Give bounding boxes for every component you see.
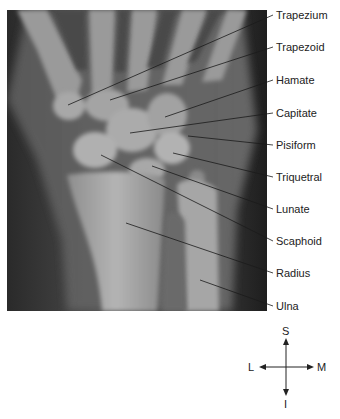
leader-line-trapezium bbox=[68, 15, 273, 105]
leader-line-pisiform bbox=[188, 136, 273, 145]
leader-line-ulna bbox=[200, 280, 273, 306]
leader-line-scaphoid bbox=[101, 155, 273, 241]
compass-inferior-label: I bbox=[284, 398, 287, 410]
label-hamate: Hamate bbox=[276, 74, 315, 86]
label-trapezium: Trapezium bbox=[276, 9, 328, 21]
compass-medial-label: M bbox=[317, 361, 326, 373]
label-capitate: Capitate bbox=[276, 107, 317, 119]
label-ulna: Ulna bbox=[276, 300, 299, 312]
arrow-up-icon bbox=[283, 338, 289, 345]
label-pisiform: Pisiform bbox=[276, 139, 316, 151]
arrow-right-icon bbox=[307, 364, 314, 370]
compass-arrows bbox=[259, 338, 314, 396]
leader-line-hamate bbox=[165, 80, 273, 117]
wrist-xray-figure: Trapezium Trapezoid Hamate Capitate Pisi… bbox=[0, 0, 340, 419]
arrow-down-icon bbox=[283, 389, 289, 396]
label-lunate: Lunate bbox=[276, 203, 310, 215]
leader-line-radius bbox=[126, 223, 273, 273]
compass-lateral-label: L bbox=[248, 361, 254, 373]
label-scaphoid: Scaphoid bbox=[276, 235, 322, 247]
label-radius: Radius bbox=[276, 267, 310, 279]
leader-line-capitate bbox=[130, 113, 273, 133]
label-trapezoid: Trapezoid bbox=[276, 41, 325, 53]
leader-line-triquetral bbox=[173, 153, 273, 177]
label-triquetral: Triquetral bbox=[276, 171, 322, 183]
arrow-left-icon bbox=[259, 364, 266, 370]
compass-superior-label: S bbox=[282, 325, 289, 337]
leader-line-trapezoid bbox=[110, 47, 273, 100]
